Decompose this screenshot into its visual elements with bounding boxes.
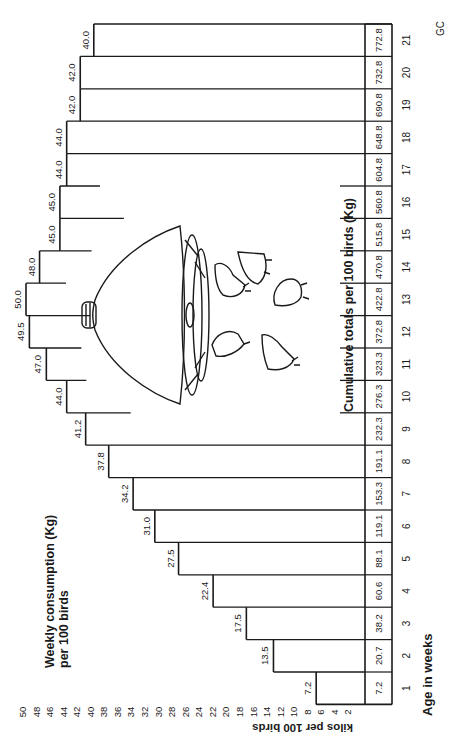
x-axis-label: Age in weeks [420,634,435,716]
chick-icon [262,335,300,370]
tick-label: 38 [98,707,109,718]
tick-label: 48 [31,707,42,718]
cumulative-value: 38.2 [373,614,384,633]
bar-value-label: 7.2 [302,682,313,695]
week-label: 8 [401,458,412,464]
title-line-1: Weekly consumption (Kg) [43,515,57,668]
week-label: 12 [401,326,412,338]
week-label: 6 [401,523,412,529]
week-label: 17 [401,164,412,176]
signature-gc: GC [435,21,446,36]
week-label: 16 [401,196,412,208]
tick-label: 22 [207,707,218,718]
bar-value-label: 40.0 [80,31,91,50]
chick-icon [215,263,251,296]
chick-icon [212,332,250,357]
tick-label: 26 [180,707,191,718]
bar-value-label: 31.0 [141,517,152,536]
tick-label: 46 [44,707,55,718]
tick-label: 42 [71,707,82,718]
lamp-dome-icon [93,226,185,404]
tick-label: 16 [248,707,259,718]
cumulative-value: 88.1 [373,549,384,568]
week-label: 2 [401,653,412,659]
tick-label: 18 [234,707,245,718]
week-label: 14 [401,261,412,273]
bar-value-label: 45.0 [46,225,57,244]
cumulative-value: 690.8 [373,93,384,117]
bar-value-label: 13.5 [259,647,270,666]
chick-icon [238,252,272,284]
week-label: 21 [401,34,412,46]
y-axis-label: kilos per 100 birds [252,722,353,734]
week-label: 15 [401,229,412,241]
bar-value-label: 44.0 [53,128,64,147]
cumulative-value: 648.8 [373,126,384,150]
bar-value-label: 27.5 [165,549,176,568]
cumulative-value: 772.8 [373,28,384,52]
tick-label: 34 [125,707,136,718]
tick-label: 28 [166,707,177,718]
cumulative-value: 119.1 [373,515,384,538]
week-label: 9 [401,426,412,432]
chart-title: Weekly consumption (Kg) per 100 birds [43,515,71,668]
cumulative-value: 20.7 [373,647,384,666]
week-label: 13 [401,293,412,305]
bar-value-label: 17.5 [232,614,243,633]
tick-label: 2 [342,709,353,714]
bar-value-label: 37.8 [95,452,106,471]
cumulative-value: 604.8 [373,158,384,182]
cumulative-value: 7.2 [373,682,384,695]
cumulative-value: 232.3 [373,417,384,441]
cumulative-column: 7.220.738.260.688.1119.1153.3191.1232.32… [365,24,392,704]
tick-label: 24 [193,707,204,718]
bar-value-label: 34.2 [119,485,130,504]
week-label: 10 [401,391,412,403]
bar-value-label: 48.0 [26,258,37,277]
bar-value-label: 22.4 [199,582,210,601]
cumulative-value: 60.6 [373,582,384,601]
bar-value-label: 42.0 [66,63,77,82]
tick-label: 44 [58,707,69,718]
tick-label: 20 [220,707,231,718]
week-label: 3 [401,620,412,626]
tick-label: 30 [153,707,164,718]
week-label: 19 [401,99,412,111]
week-axis: 123456789101112131415161718192021 [401,34,412,691]
bar-value-label: 44.0 [53,161,64,180]
week-label: 1 [401,685,412,691]
tick-label: 50 [17,707,28,718]
tick-label: 6 [315,709,326,714]
cumulative-value: 323.3 [373,352,384,376]
bar-value-label: 41.2 [72,420,83,439]
bar-value-label: 44.0 [53,387,64,406]
cumulative-value: 422.8 [373,288,384,312]
tick-label: 12 [275,707,286,718]
tick-label: 36 [112,707,123,718]
chick-icon [274,279,309,306]
cumulative-value: 470.8 [373,255,384,279]
cumulative-value: 276.3 [373,385,384,409]
week-label: 5 [401,555,412,561]
tick-label: 32 [139,707,150,718]
tick-label: 14 [261,707,272,718]
bar-value-label: 42.0 [66,96,77,115]
cumulative-value: 515.8 [373,223,384,247]
cumulative-value: 153.3 [373,482,384,506]
week-label: 4 [401,588,412,594]
bar-value-label: 49.5 [15,323,26,342]
week-label: 18 [401,131,412,143]
week-label: 7 [401,491,412,497]
bar-value-label: 45.0 [46,193,57,212]
week-label: 20 [401,67,412,79]
cumulative-value: 191.1 [373,450,384,474]
bar-value-label: 50.0 [12,290,23,309]
tick-label: 10 [288,707,299,718]
title-line-2: per 100 birds [57,515,71,668]
brooder-lamp-illustration [82,226,309,404]
cumulative-value: 732.8 [373,61,384,85]
value-axis-ticks: 2468101214161820222426283032343638404244… [17,707,353,718]
cumulative-value: 560.8 [373,190,384,214]
week-label: 11 [401,359,412,370]
tick-label: 8 [302,709,313,714]
